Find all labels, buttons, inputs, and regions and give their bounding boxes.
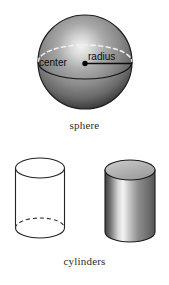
sphere-center-label: center	[39, 58, 67, 68]
figure-canvas	[0, 0, 169, 285]
cylinder-bottom-front-arc	[16, 228, 65, 238]
shaded-cylinder-body	[105, 170, 155, 242]
center-dot-icon	[82, 61, 87, 66]
shaded-cylinder-graphic	[105, 160, 155, 242]
wireframe-cylinder-graphic	[16, 158, 65, 238]
cylinder-top-ellipse	[16, 158, 65, 178]
cylinder-hidden-back-arc	[16, 218, 65, 228]
sphere-caption: sphere	[0, 119, 169, 131]
cylinders-caption: cylinders	[0, 255, 169, 267]
shaded-cylinder-top-ellipse	[105, 160, 155, 180]
sphere-radius-label: radius	[88, 52, 115, 62]
geometry-figure: center radius sphere cylinders	[0, 0, 169, 285]
